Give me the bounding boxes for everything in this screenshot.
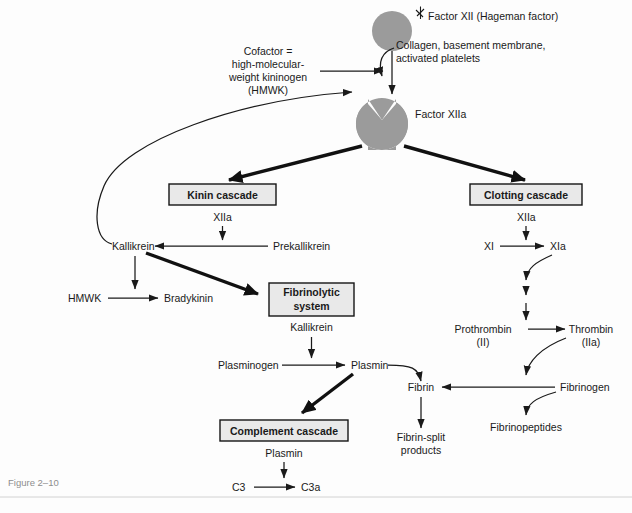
kallikrein-fibrinolytic-label: Kallikrein — [290, 321, 333, 333]
plasmin-complement-label: Plasmin — [265, 447, 303, 459]
prothrombin-label-line1: Prothrombin — [454, 323, 511, 335]
xiia-clotting-label: XIIa — [517, 211, 536, 223]
complement-cascade-label: Complement cascade — [230, 425, 338, 437]
xia-label: XIa — [550, 240, 566, 252]
fibrinolytic-system-label-line2: system — [293, 300, 329, 312]
cofactor-label-line2: high-molecular- — [232, 58, 305, 70]
cofactor-label-line4: (HMWK) — [248, 84, 288, 96]
plasminogen-label: Plasminogen — [218, 359, 279, 371]
activators-label-line1: Collagen, basement membrane, — [396, 39, 545, 51]
figure-container: Factor XII (Hageman factor) Collagen, ba… — [0, 0, 632, 513]
fibrin-split-label-line1: Fibrin-split — [397, 431, 446, 443]
activators-label-line2: activated platelets — [396, 52, 480, 64]
hmwk-label: HMWK — [68, 292, 101, 304]
plasmin-label: Plasmin — [351, 359, 389, 371]
fibrinogen-label: Fibrinogen — [560, 381, 610, 393]
factor-xiia-label: Factor XIIa — [415, 108, 467, 120]
xiia-kinin-label: XIIa — [213, 211, 232, 223]
kallikrein-label: Kallikrein — [112, 240, 155, 252]
fibrin-split-label-line2: products — [401, 444, 441, 456]
fibrin-label: Fibrin — [408, 381, 434, 393]
c3a-label: C3a — [301, 481, 320, 493]
factor-xii-label: Factor XII (Hageman factor) — [428, 10, 558, 22]
c3-label: C3 — [232, 481, 246, 493]
figure-caption: Figure 2–10 — [8, 477, 59, 488]
thrombin-label-line2: (IIa) — [582, 336, 601, 348]
clotting-cascade-label: Clotting cascade — [484, 189, 568, 201]
bradykinin-label: Bradykinin — [164, 292, 213, 304]
fibrinolytic-system-label-line1: Fibrinolytic — [283, 286, 340, 298]
cofactor-label-line3: weight kininogen — [228, 71, 307, 83]
cofactor-label-line1: Cofactor = — [244, 45, 293, 57]
xi-label: XI — [484, 240, 494, 252]
thrombin-label-line1: Thrombin — [569, 323, 614, 335]
prekallikrein-label: Prekallikrein — [273, 240, 330, 252]
prothrombin-label-line2: (II) — [477, 336, 490, 348]
fibrinopeptides-label: Fibrinopeptides — [490, 421, 562, 433]
kinin-cascade-label: Kinin cascade — [187, 189, 258, 201]
